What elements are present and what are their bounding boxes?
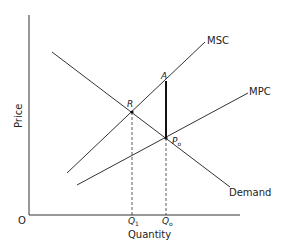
- msc-label: MSC: [207, 35, 229, 46]
- y-axis-title: Price: [13, 104, 24, 128]
- point-p0: [164, 136, 167, 139]
- x-axis-title: Quantity: [128, 229, 171, 240]
- demand-curve: [52, 52, 230, 187]
- point-r: [130, 110, 133, 113]
- q1-label: Q1: [128, 216, 139, 227]
- point-r-label: R: [127, 99, 133, 109]
- point-p0-label: Po: [172, 136, 181, 147]
- demand-label: Demand: [229, 187, 271, 198]
- mpc-label: MPC: [249, 86, 271, 97]
- q0-label: Qo: [162, 216, 173, 227]
- externality-diagram: MSC MPC Demand R A Po O Q1 Qo Quantity P…: [0, 0, 287, 251]
- point-a-label: A: [160, 71, 167, 81]
- origin-label: O: [18, 215, 26, 226]
